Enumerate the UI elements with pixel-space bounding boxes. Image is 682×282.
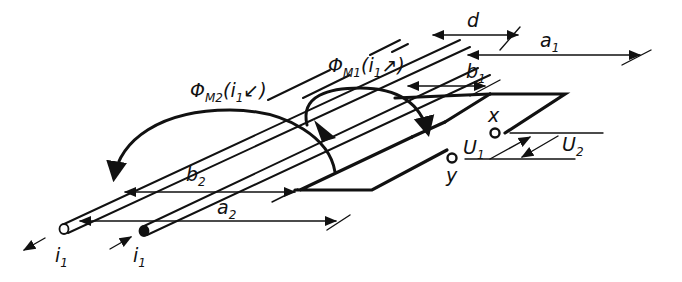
dimension-b1: b1 [408, 60, 500, 96]
mutual-inductance-diagram: x y U1 U2 d a1 b1 b2 a2 [0, 0, 682, 282]
dimension-d-label: d [467, 9, 480, 31]
dimension-b2: b2 [125, 163, 298, 202]
terminal-y: y [445, 154, 458, 187]
current-left: i1 [24, 238, 68, 270]
flux-m2-label: ΦM2(i1↙) [190, 79, 267, 105]
voltage-u1-label: U1 [463, 136, 485, 162]
voltage-indicators: U1 U2 [463, 133, 603, 162]
dimension-a2-label: a2 [217, 196, 236, 222]
dimension-b2-label: b2 [186, 163, 206, 189]
terminal-y-label: y [445, 164, 458, 186]
current-right: i1 [110, 237, 146, 270]
voltage-u2-label: U2 [562, 133, 584, 159]
dimension-a2: a2 [80, 196, 350, 230]
dimension-d: d [433, 9, 520, 50]
dimension-a1-label: a1 [540, 29, 559, 55]
terminal-x-label: x [487, 104, 500, 126]
flux-m2-arc [114, 110, 336, 178]
flux-m1-label: ΦM1(i1↗) [328, 54, 405, 80]
current-left-label: i1 [55, 244, 68, 270]
current-right-label: i1 [133, 244, 146, 270]
terminal-x: x [487, 104, 500, 138]
